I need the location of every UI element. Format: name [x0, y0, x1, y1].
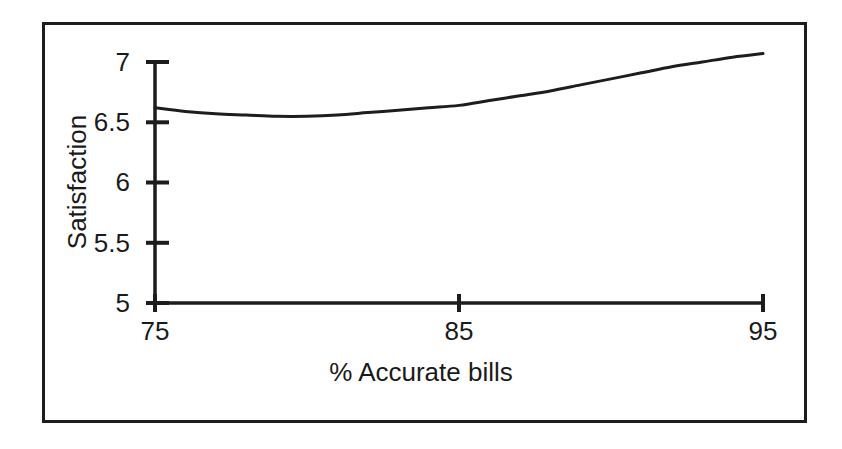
data-series-line: [155, 54, 763, 117]
x-tick-label-95: 95: [723, 318, 803, 344]
y-axis-ticks: [146, 62, 169, 303]
y-axis-title: Satisfaction: [62, 62, 92, 302]
x-tick-label-75: 75: [115, 318, 195, 344]
figure-canvas: 7 6.5 6 5.5 5 75 85 95 % Accurate bills …: [0, 0, 842, 449]
x-tick-label-85: 85: [419, 318, 499, 344]
x-axis-title: % Accurate bills: [0, 357, 842, 387]
plot-area: 7 6.5 6 5.5 5 75 85 95 % Accurate bills …: [0, 0, 842, 449]
